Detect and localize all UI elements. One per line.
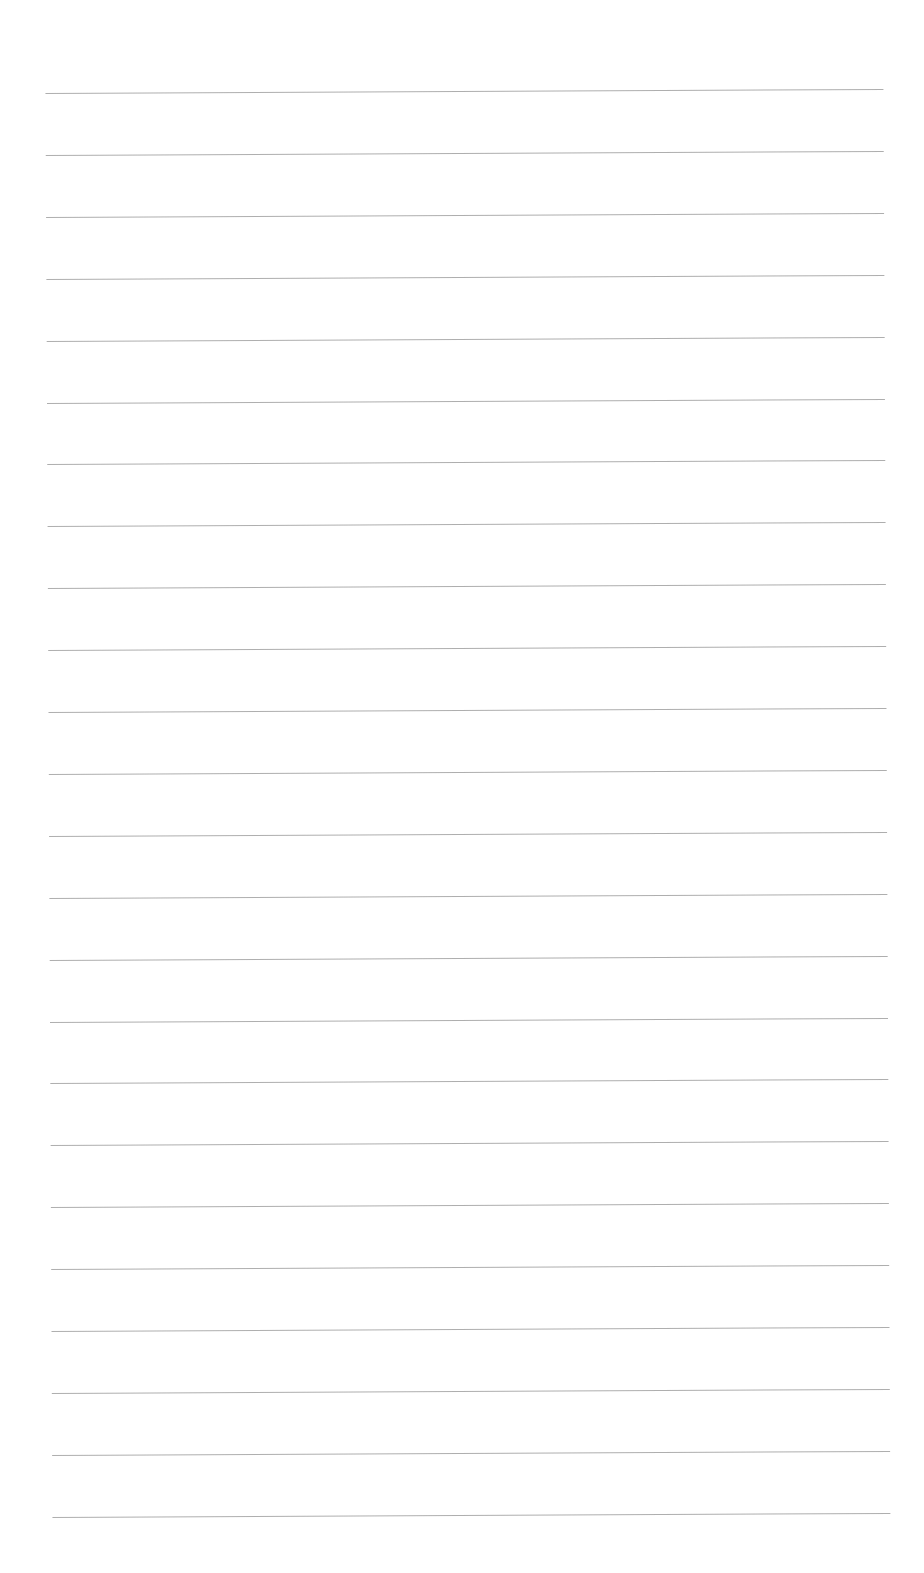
ruled-line [47,460,885,465]
ruled-line [45,89,883,94]
ruled-line [51,1141,889,1146]
ruled-line [46,213,884,218]
ruled-line [48,584,886,589]
ruled-line [48,646,886,651]
ruled-line [52,1513,890,1518]
ruled-line [47,398,885,403]
ruled-line [50,955,888,960]
ruled-line [48,708,886,713]
ruled-lines [45,0,891,1573]
ruled-line [47,336,885,341]
ruled-line [46,151,884,156]
ruled-line [51,1203,889,1208]
ruled-line [51,1265,889,1270]
ruled-line [50,1079,888,1084]
ruled-line [52,1327,890,1332]
ruled-line [49,832,887,837]
ruled-line [46,275,884,280]
ruled-line [52,1389,890,1394]
ruled-line [50,1017,888,1022]
lined-paper-sheet [0,0,924,1573]
ruled-line [49,894,887,899]
ruled-line [52,1451,890,1456]
ruled-line [49,770,887,775]
ruled-line [48,522,886,527]
